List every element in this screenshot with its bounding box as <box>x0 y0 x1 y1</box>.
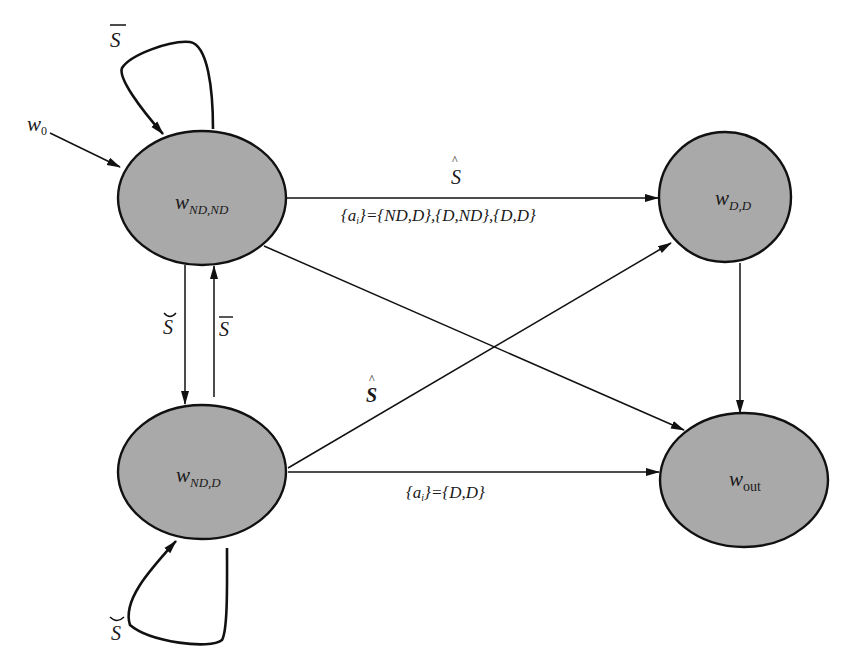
node-out: wout <box>660 413 828 547</box>
svg-text:^: ^ <box>452 153 458 167</box>
top-edge-action-set: {ai}={ND,D},{D,ND},{D,D} <box>341 206 536 226</box>
s-breve-label-mid: S <box>163 313 176 338</box>
edge-initial <box>50 133 120 167</box>
bottom-edge-action-set: {ai}={D,D} <box>406 483 485 503</box>
node-nd-d: wND,D <box>118 405 286 539</box>
node-nd-nd: wND,ND <box>118 131 286 265</box>
s-bar-label-mid: S <box>219 317 233 340</box>
svg-text:S: S <box>451 166 461 188</box>
labels: w0 S ^ S {ai}={ND,D},{D,ND},{D,D} S S ^ … <box>27 25 536 644</box>
node-d-d: wD,D <box>659 132 791 262</box>
edge-nd-d-to-d-d <box>288 243 671 468</box>
svg-text:S: S <box>219 318 229 340</box>
edge-nd-nd-to-out <box>264 246 684 430</box>
s-hat-label-top: ^ S <box>451 153 461 188</box>
svg-text:S: S <box>163 316 173 338</box>
edge-loop-nd-d <box>129 541 227 644</box>
s-hat-label-diagonal: ^ S <box>366 372 377 406</box>
svg-text:S: S <box>366 384 377 406</box>
edge-loop-nd-nd <box>122 42 213 134</box>
svg-text:S: S <box>111 622 121 644</box>
s-bar-label-top: S <box>110 25 126 52</box>
svg-text:S: S <box>110 28 121 52</box>
state-diagram: wND,ND wD,D wND,D wout w0 S ^ S {ai}={ND… <box>0 0 848 663</box>
initial-state-label: w0 <box>27 112 47 138</box>
edges <box>50 42 740 645</box>
s-breve-label-bottom: S <box>110 617 124 644</box>
